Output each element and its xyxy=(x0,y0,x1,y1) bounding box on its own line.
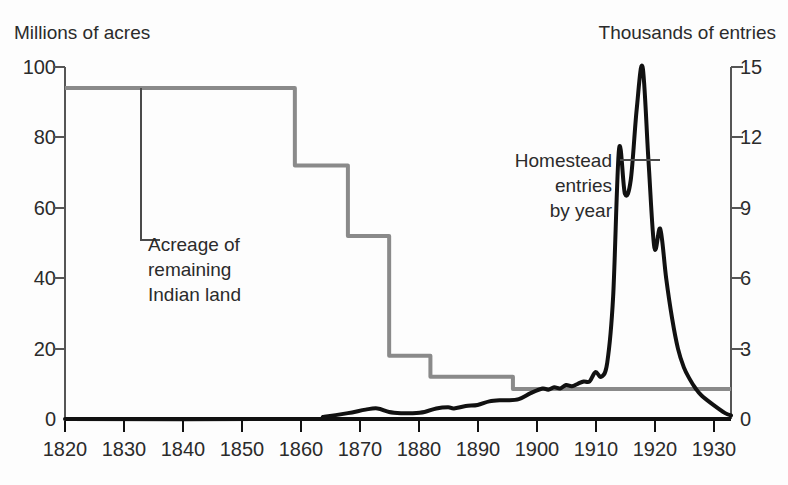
y-right-ticks xyxy=(731,67,743,349)
y-left-ticks xyxy=(53,67,65,349)
plot-canvas xyxy=(0,0,788,485)
acreage-annotation-label: Acreage of remaining Indian land xyxy=(148,232,241,307)
acreage-leader-line xyxy=(141,88,160,240)
x-ticks xyxy=(65,421,714,432)
homestead-annotation-label: Homestead entries by year xyxy=(432,148,612,223)
chart-figure: Millions of acres Thousands of entries 1… xyxy=(0,0,788,485)
